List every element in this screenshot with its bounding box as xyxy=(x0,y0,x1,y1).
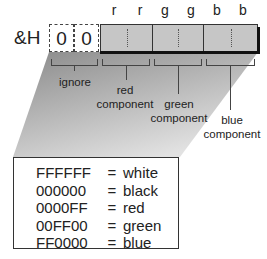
legend-color-name: black xyxy=(123,182,158,200)
legend-equals: = xyxy=(101,182,123,200)
ignored-digit-2: 0 xyxy=(74,24,99,52)
nibble-divider xyxy=(231,29,232,47)
ignore-stem xyxy=(74,66,75,71)
ignore-bracket xyxy=(51,59,98,66)
red-byte-box xyxy=(100,24,153,52)
legend-equals: = xyxy=(101,199,123,217)
red-label-line1: red xyxy=(70,83,180,97)
legend-equals: = xyxy=(101,217,123,235)
blue-label: blue component xyxy=(177,113,267,141)
blue-bracket xyxy=(206,59,255,66)
letter-b1: b xyxy=(204,2,230,18)
legend-code: 000000 xyxy=(36,182,101,200)
legend-row: FFFFFF=white xyxy=(36,164,178,182)
nibble-divider xyxy=(127,29,128,47)
hex-prefix: &H xyxy=(14,27,40,49)
letter-r2: r xyxy=(127,2,153,18)
legend-code: FFFFFF xyxy=(36,164,101,182)
green-label-line1: green xyxy=(124,97,234,111)
red-stem xyxy=(126,66,127,80)
letter-r1: r xyxy=(101,2,127,18)
legend-equals: = xyxy=(101,164,123,182)
legend-row: 000000=black xyxy=(36,182,178,200)
legend-row: FF0000=blue xyxy=(36,234,178,252)
red-bracket xyxy=(102,59,150,66)
legend-color-name: green xyxy=(123,217,161,235)
green-bracket xyxy=(154,59,202,66)
box-shadow-right xyxy=(257,27,260,54)
legend-code: FF0000 xyxy=(36,234,101,252)
nibble-divider xyxy=(178,29,179,47)
letter-b2: b xyxy=(230,2,256,18)
legend-code: 00FF00 xyxy=(36,217,101,235)
legend-row: 00FF00=green xyxy=(36,217,178,235)
green-byte-box xyxy=(152,24,204,52)
blue-label-line1: blue xyxy=(177,113,267,127)
legend-color-name: red xyxy=(123,199,145,217)
color-legend: FFFFFF=white 000000=black 0000FF=red 00F… xyxy=(13,157,179,249)
letter-g2: g xyxy=(178,2,204,18)
letter-g1: g xyxy=(152,2,178,18)
legend-equals: = xyxy=(101,234,123,252)
legend-code: 0000FF xyxy=(36,199,101,217)
ignored-digit-1: 0 xyxy=(49,24,74,52)
blue-label-line2: component xyxy=(177,127,267,141)
blue-byte-box xyxy=(203,24,258,52)
legend-color-name: blue xyxy=(123,234,151,252)
legend-row: 0000FF=red xyxy=(36,199,178,217)
box-shadow-bottom xyxy=(100,51,258,54)
legend-color-name: white xyxy=(123,164,158,182)
